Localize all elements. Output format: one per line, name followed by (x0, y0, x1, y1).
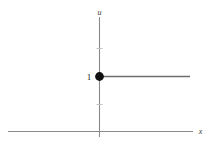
y-axis-label: u (98, 8, 102, 17)
point-value-label: 1 (87, 72, 92, 82)
coordinate-plot: 1 u x (0, 0, 211, 145)
graph-figure: 1 u x (0, 0, 211, 145)
filled-point-marker (95, 72, 104, 81)
x-axis-label: x (198, 127, 203, 136)
